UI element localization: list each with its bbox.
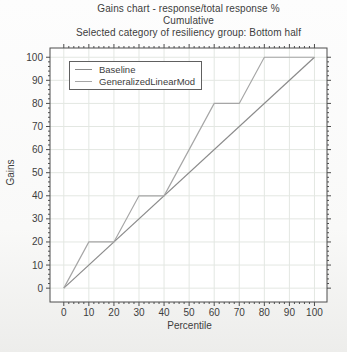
baseline-line-swatch — [75, 69, 92, 70]
y-tick-label: 10 — [32, 260, 44, 271]
x-tick-label: 80 — [259, 307, 271, 318]
y-tick-label: 100 — [26, 52, 43, 63]
x-tick-label: 90 — [284, 307, 296, 318]
y-axis-title: Gains — [5, 143, 18, 203]
legend-item-baseline: Baseline — [75, 64, 195, 75]
legend: Baseline GeneralizedLinearMod — [69, 61, 202, 90]
x-tick-label: 60 — [209, 307, 221, 318]
x-tick-label: 0 — [61, 307, 67, 318]
gains-chart-plot: 0102030405060708090100010203040506070809… — [0, 0, 347, 352]
y-tick-label: 20 — [32, 236, 44, 247]
y-tick-label: 40 — [32, 190, 44, 201]
legend-label-baseline: Baseline — [99, 64, 135, 75]
y-tick-label: 60 — [32, 144, 44, 155]
generalizedlinearmod-line-swatch — [75, 81, 92, 82]
y-tick-label: 50 — [32, 167, 44, 178]
x-tick-label: 100 — [306, 307, 323, 318]
y-tick-label: 30 — [32, 213, 44, 224]
y-tick-label: 90 — [32, 75, 44, 86]
x-tick-label: 20 — [108, 307, 120, 318]
legend-label-generalizedlinearmod: GeneralizedLinearMod — [99, 76, 195, 87]
y-tick-label: 70 — [32, 121, 44, 132]
x-tick-label: 10 — [83, 307, 95, 318]
x-tick-label: 40 — [158, 307, 170, 318]
x-tick-label: 50 — [184, 307, 196, 318]
y-tick-label: 0 — [37, 283, 43, 294]
x-tick-label: 70 — [234, 307, 246, 318]
y-tick-label: 80 — [32, 98, 44, 109]
legend-item-generalizedlinearmod: GeneralizedLinearMod — [75, 76, 195, 87]
gains-chart-figure: Gains chart - response/total response % … — [0, 0, 347, 352]
x-axis-title: Percentile — [51, 320, 328, 331]
x-tick-label: 30 — [133, 307, 145, 318]
